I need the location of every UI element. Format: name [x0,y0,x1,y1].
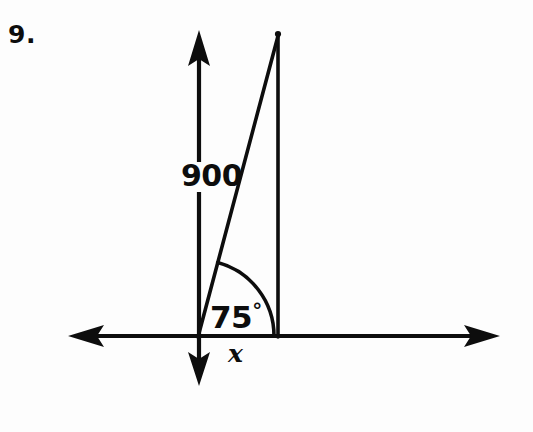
hypotenuse-length-label: 900 [181,161,242,191]
angle-measure-label: 75° [210,300,262,333]
angle-value-text: 75 [210,299,252,335]
problem-number-label: 9. [8,22,36,47]
geometry-diagram [0,0,533,432]
figure-canvas: 9. 900 75° x [0,0,533,432]
base-length-variable-label: x [228,341,243,366]
apex-vertex-point [275,31,281,37]
degree-symbol: ° [252,298,262,322]
